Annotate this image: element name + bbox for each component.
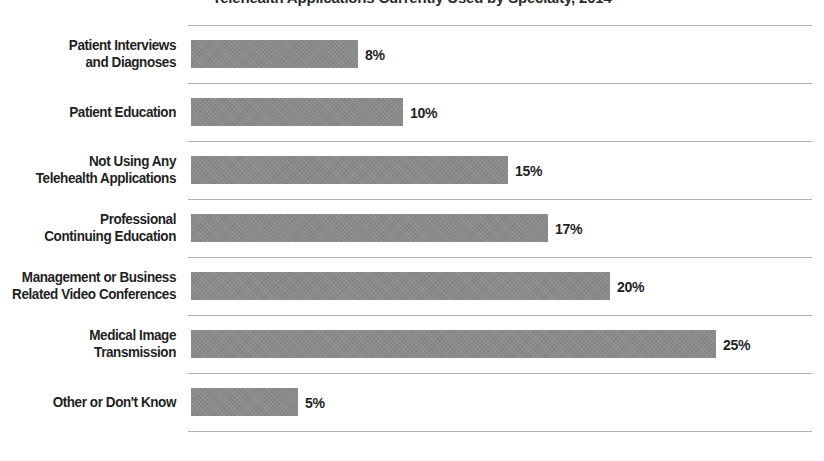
category-label-line: Medical Image [89, 327, 176, 344]
category-label: Other or Don't Know [12, 373, 176, 431]
gridline [188, 431, 812, 432]
chart-row: Other or Don't Know5% [0, 373, 824, 431]
bar[interactable] [191, 272, 610, 300]
bar-value-label: 15% [515, 156, 542, 184]
bar-value-label: 10% [410, 98, 437, 126]
category-label-line: Patient Interviews [69, 37, 176, 54]
bar-value-label: 8% [365, 40, 385, 68]
chart-row: Patient Education10% [0, 83, 824, 141]
bar[interactable] [191, 214, 548, 242]
category-label: Medical ImageTransmission [12, 315, 176, 373]
bar-value-label: 5% [305, 388, 325, 416]
category-label: Patient Interviewsand Diagnoses [12, 25, 176, 83]
chart-row: Medical ImageTransmission25% [0, 315, 824, 373]
bar-chart: Telehealth Applications Currently Used b… [0, 0, 824, 461]
bar[interactable] [191, 98, 403, 126]
chart-row: Patient Interviewsand Diagnoses8% [0, 25, 824, 83]
category-label-line: Related Video Conferences [12, 286, 176, 303]
category-label-line: Transmission [94, 344, 176, 361]
bar[interactable] [191, 156, 508, 184]
category-label-line: and Diagnoses [86, 54, 176, 71]
category-label-line: Other or Don't Know [53, 394, 176, 411]
category-label: Patient Education [12, 83, 176, 141]
plot-area: Patient Interviewsand Diagnoses8%Patient… [0, 0, 824, 461]
category-label-line: Telehealth Applications [36, 170, 176, 187]
bar-value-label: 25% [723, 330, 750, 358]
chart-row: ProfessionalContinuing Education17% [0, 199, 824, 257]
category-label: Management or BusinessRelated Video Conf… [12, 257, 176, 315]
bar[interactable] [191, 40, 358, 68]
bar-value-label: 17% [555, 214, 582, 242]
category-label: Not Using AnyTelehealth Applications [12, 141, 176, 199]
category-label-line: Continuing Education [44, 228, 176, 245]
category-label-line: Not Using Any [89, 153, 176, 170]
chart-row: Management or BusinessRelated Video Conf… [0, 257, 824, 315]
category-label-line: Management or Business [22, 269, 176, 286]
bar[interactable] [191, 388, 298, 416]
category-label-line: Patient Education [69, 104, 176, 121]
category-label: ProfessionalContinuing Education [12, 199, 176, 257]
category-label-line: Professional [100, 211, 176, 228]
bar-value-label: 20% [617, 272, 644, 300]
bar[interactable] [191, 330, 716, 358]
chart-row: Not Using AnyTelehealth Applications15% [0, 141, 824, 199]
